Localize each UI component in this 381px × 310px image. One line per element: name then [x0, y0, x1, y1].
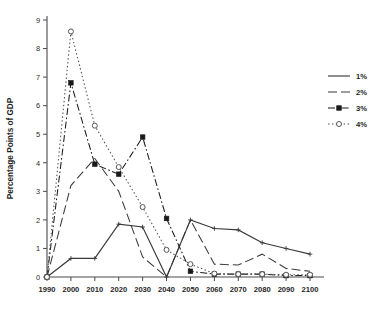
chart-container: 0123456789199020002010202020302040205020… — [0, 0, 381, 310]
marker-open-circle — [116, 165, 121, 170]
legend-label-2pct: 2% — [356, 88, 367, 97]
x-tick-label: 2000 — [62, 285, 79, 294]
marker-open-circle — [260, 272, 265, 277]
marker-filled-square — [93, 162, 98, 167]
marker-open-circle — [212, 271, 217, 276]
marker-open-circle — [140, 205, 145, 210]
legend-label-3pct: 3% — [356, 104, 367, 113]
legend-label-1pct: 1% — [356, 72, 367, 81]
x-tick-label: 1990 — [39, 285, 56, 294]
marker-open-circle — [188, 262, 193, 267]
y-tick-label: 0 — [36, 273, 40, 282]
y-tick-label: 7 — [36, 73, 40, 82]
marker-filled-square — [140, 135, 145, 140]
marker-open-circle — [236, 272, 241, 277]
marker-filled-square — [188, 269, 193, 274]
y-tick-label: 5 — [36, 130, 40, 139]
x-tick-label: 2100 — [302, 285, 319, 294]
legend-marker-filled-square — [337, 106, 342, 111]
plot-area: 0123456789199020002010202020302040205020… — [6, 16, 367, 294]
y-tick-label: 3 — [36, 187, 40, 196]
series-line-4pct — [47, 31, 310, 277]
x-tick-label: 2050 — [182, 285, 199, 294]
marker-open-circle — [284, 272, 289, 277]
y-tick-label: 8 — [36, 44, 40, 53]
x-tick-label: 2070 — [230, 285, 247, 294]
y-tick-label: 2 — [36, 216, 40, 225]
marker-open-circle — [68, 29, 73, 34]
x-tick-label: 2030 — [134, 285, 151, 294]
x-tick-label: 2010 — [86, 285, 103, 294]
x-tick-label: 2080 — [254, 285, 271, 294]
marker-filled-square — [116, 172, 121, 177]
line-chart: 0123456789199020002010202020302040205020… — [0, 0, 381, 310]
y-axis-title: Percentage Points of GDP — [6, 97, 15, 199]
marker-open-circle — [92, 123, 97, 128]
marker-filled-square — [69, 81, 74, 86]
legend-label-4pct: 4% — [356, 120, 367, 129]
series-line-2pct — [47, 158, 310, 277]
y-tick-label: 9 — [36, 16, 40, 25]
marker-open-circle — [164, 247, 169, 252]
x-tick-label: 2060 — [206, 285, 223, 294]
marker-open-circle — [308, 272, 313, 277]
x-tick-label: 2090 — [278, 285, 295, 294]
y-tick-label: 6 — [36, 101, 40, 110]
y-tick-label: 1 — [36, 244, 40, 253]
y-tick-label: 4 — [36, 159, 40, 168]
marker-open-circle — [45, 275, 50, 280]
marker-filled-square — [164, 216, 169, 221]
x-tick-label: 2040 — [158, 285, 175, 294]
legend-marker-open-circle — [337, 122, 342, 127]
x-tick-label: 2020 — [110, 285, 127, 294]
